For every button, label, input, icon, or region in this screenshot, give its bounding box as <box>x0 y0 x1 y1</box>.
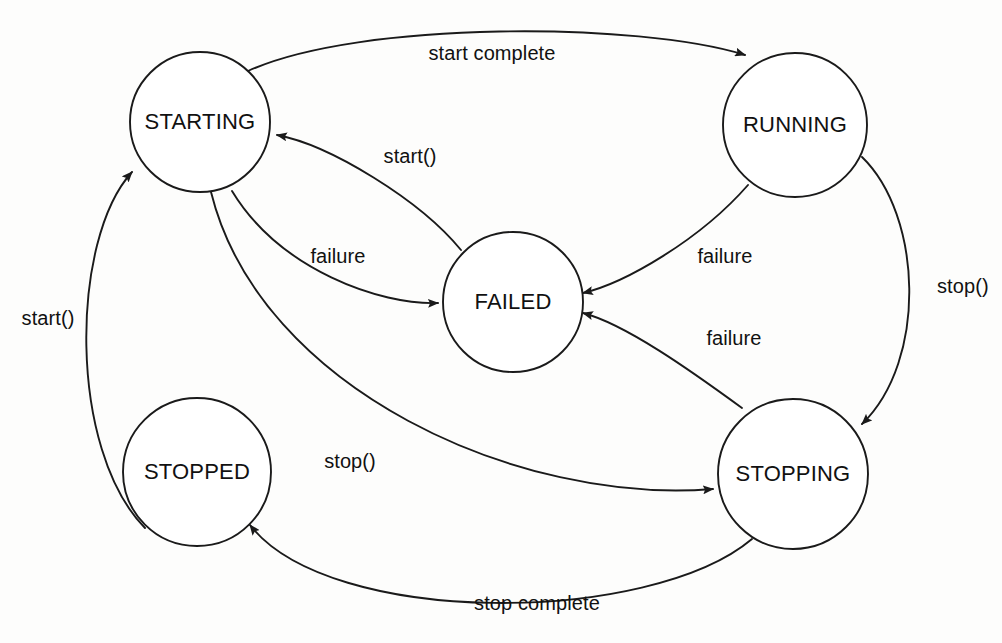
transition-edge-running-failed <box>583 185 748 293</box>
state-label-stopped: STOPPED <box>144 459 250 484</box>
transition-label-running-stopping: stop() <box>937 275 989 297</box>
transition-label-starting-failed: failure <box>310 245 365 267</box>
state-label-stopping: STOPPING <box>736 461 851 486</box>
state-label-running: RUNNING <box>743 112 847 137</box>
transition-label-starting-stopping: stop() <box>324 450 376 472</box>
transition-label-running-failed: failure <box>697 245 752 267</box>
nodes-layer: STARTINGRUNNINGFAILEDSTOPPEDSTOPPING <box>123 52 868 549</box>
transition-label-stopping-stopped: stop complete <box>474 592 600 614</box>
state-node-failed[interactable]: FAILED <box>443 232 583 372</box>
transition-label-starting-running: start complete <box>428 42 555 64</box>
transition-label-stopped-starting: start() <box>22 307 75 329</box>
state-diagram-canvas: STARTINGRUNNINGFAILEDSTOPPEDSTOPPING sta… <box>0 0 1002 643</box>
state-label-failed: FAILED <box>474 289 551 314</box>
state-node-starting[interactable]: STARTING <box>130 52 270 192</box>
state-node-running[interactable]: RUNNING <box>723 53 867 197</box>
state-node-stopped[interactable]: STOPPED <box>123 398 271 546</box>
transition-edge-running-stopping <box>862 157 909 424</box>
state-label-starting: STARTING <box>145 109 256 134</box>
transition-label-stopping-failed: failure <box>706 327 761 349</box>
state-node-stopping[interactable]: STOPPING <box>718 399 868 549</box>
transition-label-failed-starting: start() <box>384 145 437 167</box>
transition-edge-stopping-stopped <box>250 525 752 603</box>
state-machine-diagram: STARTINGRUNNINGFAILEDSTOPPEDSTOPPING sta… <box>0 0 1002 643</box>
